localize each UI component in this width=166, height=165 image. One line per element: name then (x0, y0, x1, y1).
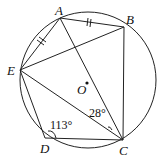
tick-AB-2 (90, 19, 91, 27)
segment-ED (20, 70, 45, 138)
segment-BE (20, 27, 124, 70)
segment-DC (45, 138, 123, 140)
label-O: O (77, 82, 87, 97)
angle-arc-ACE (108, 127, 112, 130)
segment-BC (123, 27, 124, 140)
label-E: E (6, 63, 15, 78)
geometry-diagram: A B C D E O 28° 113° (0, 0, 166, 165)
circumcircle (20, 12, 156, 148)
label-C: C (119, 143, 128, 158)
label-D: D (39, 141, 50, 156)
angle-label-ACE: 28° (89, 106, 106, 120)
label-B: B (126, 12, 134, 27)
segment-AB (60, 18, 124, 27)
diagram-canvas: A B C D E O 28° 113° (0, 0, 166, 165)
tick-AB-1 (87, 18, 88, 26)
angle-label-EDC: 113° (50, 118, 73, 132)
label-A: A (54, 3, 63, 18)
